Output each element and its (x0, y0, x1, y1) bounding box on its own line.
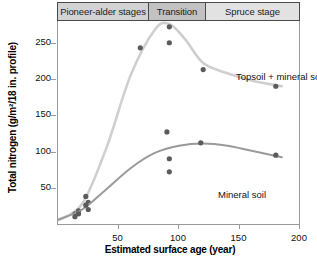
y-tick-label: 100 (35, 145, 51, 156)
stage-cell-transition: Transition (149, 3, 206, 20)
data-point (167, 40, 172, 45)
y-tick-mark (51, 152, 56, 153)
data-point (273, 84, 278, 89)
y-tick-mark (51, 188, 56, 189)
y-tick-label: 250 (35, 36, 51, 47)
data-point (273, 153, 278, 158)
stage-label-transition: Transition (157, 6, 197, 17)
x-tick-mark (239, 224, 240, 229)
y-tick-mark (51, 79, 56, 80)
x-tick-label: 100 (158, 232, 198, 243)
x-axis-ticks: 50100150200 (0, 228, 317, 244)
x-tick-mark (178, 224, 179, 229)
plot-area: Topsoil + mineral soil Mineral soil (57, 21, 300, 225)
series-label-mineral: Mineral soil (218, 189, 266, 200)
data-point (138, 45, 143, 50)
x-tick-mark (299, 224, 300, 229)
data-point (201, 67, 206, 72)
stage-cell-spruce: Spruce stage (206, 3, 299, 20)
data-point (86, 207, 91, 212)
y-tick-label: 50 (40, 181, 51, 192)
x-axis-title: Estimated surface age (year) (40, 244, 300, 255)
x-tick-label: 50 (98, 232, 138, 243)
y-axis-title: Total nitrogen (g/m²/18 in. profile) (7, 20, 18, 216)
stage-label-pioneer: Pioneer-alder stages (60, 6, 146, 17)
y-tick-mark (51, 43, 56, 44)
series-mineral (58, 129, 282, 219)
y-tick-mark (51, 115, 56, 116)
data-point (198, 140, 203, 145)
y-tick-label: 200 (35, 72, 51, 83)
stage-label-spruce: Spruce stage (225, 6, 280, 17)
data-point (167, 24, 172, 29)
data-point (83, 194, 88, 199)
stage-header-bar: Pioneer-alder stages Transition Spruce s… (57, 2, 300, 21)
data-point (167, 169, 172, 174)
trend-line (58, 144, 282, 220)
data-point (167, 156, 172, 161)
data-point (164, 129, 169, 134)
x-tick-label: 200 (279, 232, 317, 243)
data-point (76, 211, 81, 216)
series-label-topsoil: Topsoil + mineral soil (236, 71, 317, 82)
x-tick-mark (118, 224, 119, 229)
stage-cell-pioneer: Pioneer-alder stages (58, 3, 149, 20)
y-tick-label: 150 (35, 108, 51, 119)
x-tick-label: 150 (219, 232, 259, 243)
data-point (83, 203, 88, 208)
